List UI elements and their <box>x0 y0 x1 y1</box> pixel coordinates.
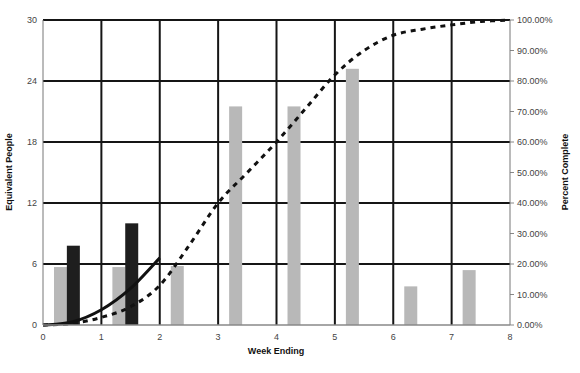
x-tick-label: 6 <box>391 332 396 342</box>
y2-tick-label: 90.00% <box>517 46 548 56</box>
x-tick-label: 5 <box>332 332 337 342</box>
bar <box>346 69 359 325</box>
chart-canvas: 06121824300123456780.00%10.00%20.00%30.0… <box>0 0 580 373</box>
bar <box>229 106 242 325</box>
y-tick-label: 24 <box>27 76 37 86</box>
bar <box>404 286 417 325</box>
y2-tick-label: 80.00% <box>517 76 548 86</box>
bar <box>463 270 476 325</box>
y2-tick-label: 20.00% <box>517 259 548 269</box>
y-tick-label: 30 <box>27 15 37 25</box>
bar <box>288 106 301 325</box>
bar-series <box>54 69 476 325</box>
x-tick-label: 4 <box>274 332 279 342</box>
y2-tick-label: 0.00% <box>517 320 543 330</box>
x-tick-label: 3 <box>216 332 221 342</box>
y-axis-title: Equivalent People <box>4 133 14 211</box>
x-tick-label: 0 <box>40 332 45 342</box>
bar <box>54 267 67 325</box>
x-tick-label: 7 <box>449 332 454 342</box>
x-tick-label: 2 <box>157 332 162 342</box>
y-tick-label: 6 <box>32 259 37 269</box>
y-tick-label: 18 <box>27 137 37 147</box>
y2-tick-label: 40.00% <box>517 198 548 208</box>
y2-axis-title: Percent Complete <box>560 134 570 211</box>
bar <box>67 246 80 325</box>
x-axis-title: Week Ending <box>248 346 304 356</box>
y2-tick-label: 50.00% <box>517 168 548 178</box>
y2-tick-label: 70.00% <box>517 107 548 117</box>
bar <box>171 266 184 325</box>
staffing-progress-chart: 06121824300123456780.00%10.00%20.00%30.0… <box>0 0 580 373</box>
x-tick-label: 8 <box>507 332 512 342</box>
bar <box>125 223 138 325</box>
y-tick-label: 12 <box>27 198 37 208</box>
y2-tick-label: 30.00% <box>517 229 548 239</box>
y2-tick-label: 10.00% <box>517 290 548 300</box>
y2-tick-label: 60.00% <box>517 137 548 147</box>
x-tick-label: 1 <box>99 332 104 342</box>
y-tick-label: 0 <box>32 320 37 330</box>
y2-tick-label: 100.00% <box>517 15 553 25</box>
